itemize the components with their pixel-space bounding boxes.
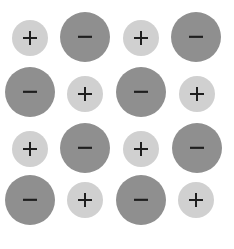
plus-icon xyxy=(190,87,204,101)
minus-icon xyxy=(190,147,204,150)
cation-circle xyxy=(12,20,48,56)
anion-circle xyxy=(116,175,166,225)
cation-circle xyxy=(123,20,159,56)
cation-circle xyxy=(67,182,103,218)
anion-circle xyxy=(172,123,222,173)
minus-icon xyxy=(189,36,203,39)
cation-circle xyxy=(179,76,215,112)
cation-circle xyxy=(67,76,103,112)
plus-icon xyxy=(134,31,148,45)
minus-icon xyxy=(134,199,148,202)
cation-circle xyxy=(12,131,48,167)
minus-icon xyxy=(23,91,37,94)
plus-icon xyxy=(134,142,148,156)
plus-icon xyxy=(189,193,203,207)
ionic-lattice-diagram xyxy=(0,0,234,249)
cation-circle xyxy=(123,131,159,167)
cation-circle xyxy=(178,182,214,218)
minus-icon xyxy=(134,91,148,94)
anion-circle xyxy=(5,175,55,225)
minus-icon xyxy=(23,199,37,202)
minus-icon xyxy=(78,36,92,39)
plus-icon xyxy=(23,31,37,45)
plus-icon xyxy=(23,142,37,156)
anion-circle xyxy=(171,12,221,62)
anion-circle xyxy=(60,12,110,62)
anion-circle xyxy=(116,67,166,117)
anion-circle xyxy=(5,67,55,117)
minus-icon xyxy=(78,147,92,150)
anion-circle xyxy=(60,123,110,173)
plus-icon xyxy=(78,87,92,101)
plus-icon xyxy=(78,193,92,207)
